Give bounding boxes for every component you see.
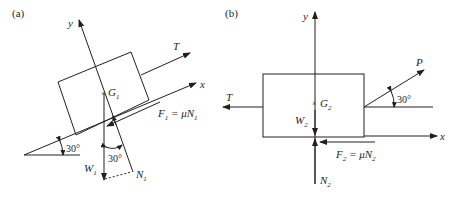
y-axis-label-b: y [302,10,308,22]
panel-a-label: (a) [12,7,25,20]
friction-label-b: F2 = μN2 [335,148,376,163]
friction-arrow-a [107,102,160,126]
pull-angle-arc [391,91,394,107]
panel-b-label: (b) [225,7,238,20]
free-body-diagrams: (a) x 30° T y × G1 W1 N1 30° F1 = μ [0,0,465,199]
centroid-marker-b: × [312,99,317,108]
normal-angle-arc [106,145,122,148]
tension-arrow-a [141,53,190,75]
normal-angle-label: 30° [108,153,122,164]
tension-label-a: T [173,40,180,52]
panel-b: (b) y x T P 30° × G2 W2 N2 F2 = μN2 [223,7,445,189]
dashed-component-a [105,172,131,179]
centroid-label-a: G1 [108,86,119,101]
weight-label-b: W2 [295,114,308,129]
incline-angle-arc [60,141,63,155]
friction-label-a: F1 = μN1 [157,107,198,122]
centroid-marker-a: × [101,89,106,98]
normal-label-a: N1 [135,168,147,183]
normal-label-b: N2 [319,174,331,189]
pull-angle-label: 30° [397,94,411,105]
pull-label-b: P [415,56,423,68]
incline-angle-label: 30° [66,143,80,154]
x-axis-label-b: x [439,130,445,142]
x-axis-label-a: x [199,78,205,90]
y-axis-a [79,20,133,172]
tension-label-b: T [226,91,233,103]
y-axis-label-a: y [67,17,73,29]
weight-label-a: W1 [84,162,97,177]
panel-a: (a) x 30° T y × G1 W1 N1 30° F1 = μ [12,7,205,183]
centroid-label-b: G2 [320,97,332,112]
